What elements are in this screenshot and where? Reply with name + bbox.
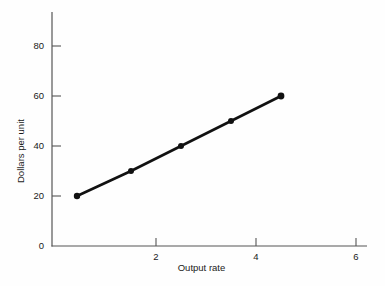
x-axis-title-text: Output rate — [178, 263, 226, 273]
x-tick-label-6: 6 — [344, 252, 368, 262]
data-point — [128, 168, 134, 174]
data-point — [278, 93, 285, 100]
x-tick-marks — [156, 238, 356, 246]
plot-area — [0, 0, 385, 286]
x-tick-label-4: 4 — [244, 252, 268, 262]
data-point — [178, 143, 184, 149]
chart-figure: 80 60 40 20 0 2 4 6 Dollars per unit Out… — [0, 0, 385, 286]
data-point — [228, 118, 234, 124]
y-tick-label-20: 20 — [14, 191, 44, 201]
y-tick-label-0: 0 — [14, 241, 44, 251]
y-axis-title: Dollars per unit — [16, 119, 26, 183]
y-tick-label-60: 60 — [14, 91, 44, 101]
x-axis-title: Output rate — [0, 263, 385, 273]
y-tick-label-80: 80 — [14, 41, 44, 51]
y-tick-marks — [52, 46, 61, 196]
x-tick-label-2: 2 — [144, 252, 168, 262]
data-point — [74, 193, 80, 199]
